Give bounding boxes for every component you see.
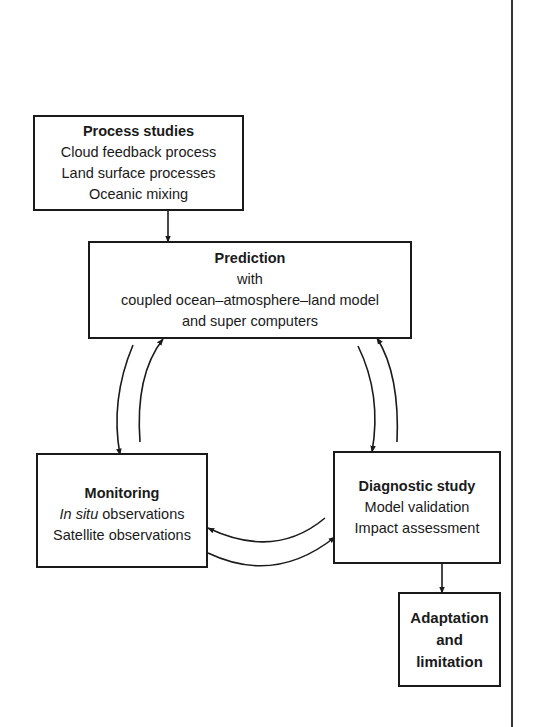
node-line: Model validation (365, 497, 470, 518)
node-title: Prediction (215, 248, 286, 269)
page-margin-rule (511, 0, 513, 727)
arrow-diagnostic-to-monitoring (208, 518, 325, 542)
node-line: limitation (416, 651, 483, 673)
node-line: Cloud feedback process (61, 142, 217, 163)
arrow-monitoring-to-prediction (139, 339, 163, 442)
node-title: Process studies (83, 121, 194, 142)
node-process-studies: Process studies Cloud feedback process L… (33, 115, 244, 211)
arrow-prediction-to-monitoring (117, 345, 133, 455)
node-prediction: Prediction with coupled ocean–atmosphere… (88, 241, 412, 339)
arrow-monitoring-to-diagnostic (208, 537, 335, 566)
node-monitoring: Monitoring In situ observations Satellit… (36, 453, 208, 568)
node-title: Diagnostic study (359, 476, 476, 497)
node-line: Land surface processes (62, 163, 216, 184)
node-line: Impact assessment (355, 518, 480, 539)
node-adaptation-and-limitation: Adaptation and limitation (398, 592, 501, 687)
node-title: Monitoring (85, 483, 160, 504)
node-line: coupled ocean–atmosphere–land model (121, 290, 379, 311)
node-line: Oceanic mixing (89, 184, 188, 205)
arrow-diagnostic-to-prediction (377, 338, 397, 442)
arrow-prediction-to-diagnostic (358, 346, 375, 452)
node-line: and super computers (182, 311, 318, 332)
node-line: with (237, 269, 263, 290)
node-line: In situ observations (60, 504, 185, 525)
line-rest: observations (98, 506, 184, 522)
node-line: Satellite observations (53, 525, 191, 546)
italic-term: In situ (60, 506, 99, 522)
node-line: Adaptation (410, 607, 488, 629)
node-line: and (436, 629, 463, 651)
node-diagnostic-study: Diagnostic study Model validation Impact… (333, 451, 501, 564)
